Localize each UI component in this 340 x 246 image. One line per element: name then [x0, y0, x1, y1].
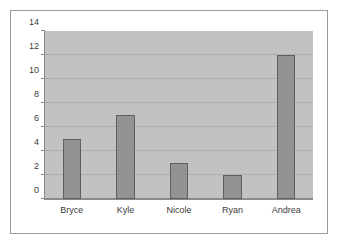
y-tick-mark-6 — [41, 126, 45, 127]
bar-ryan[interactable] — [223, 175, 241, 199]
y-tick-mark-8 — [41, 102, 45, 103]
y-tick-label-8: 8 — [34, 90, 45, 99]
x-axis-category-labels: BryceKyleNicoleRyanAndrea — [45, 199, 313, 215]
y-tick-label-4: 4 — [34, 138, 45, 147]
chart-frame: 02468101214 BryceKyleNicoleRyanAndrea — [10, 10, 328, 234]
y-tick-mark-2 — [41, 174, 45, 175]
y-tick-label-6: 6 — [34, 114, 45, 123]
y-tick-label-12: 12 — [29, 42, 45, 51]
x-label-ryan: Ryan — [206, 206, 260, 215]
y-tick-mark-10 — [41, 78, 45, 79]
plot-area — [45, 31, 313, 199]
x-label-nicole: Nicole — [152, 206, 206, 215]
bar-kyle[interactable] — [116, 115, 134, 199]
bar-andrea[interactable] — [277, 55, 295, 199]
bar-slot-ryan — [206, 31, 260, 199]
y-tick-label-0: 0 — [34, 186, 45, 195]
bar-slot-bryce — [45, 31, 99, 199]
y-tick-mark-4 — [41, 150, 45, 151]
plot-wrapper: 02468101214 BryceKyleNicoleRyanAndrea — [45, 31, 313, 199]
x-label-bryce: Bryce — [45, 206, 99, 215]
bar-slot-andrea — [259, 31, 313, 199]
bar-nicole[interactable] — [170, 163, 188, 199]
y-tick-label-10: 10 — [29, 66, 45, 75]
x-label-andrea: Andrea — [259, 206, 313, 215]
y-tick-mark-14 — [41, 30, 45, 31]
bar-group — [45, 31, 313, 199]
y-tick-label-2: 2 — [34, 162, 45, 171]
x-label-kyle: Kyle — [99, 206, 153, 215]
bar-bryce[interactable] — [63, 139, 81, 199]
y-tick-mark-12 — [41, 54, 45, 55]
bar-slot-kyle — [99, 31, 153, 199]
y-tick-label-14: 14 — [29, 18, 45, 27]
bar-slot-nicole — [152, 31, 206, 199]
